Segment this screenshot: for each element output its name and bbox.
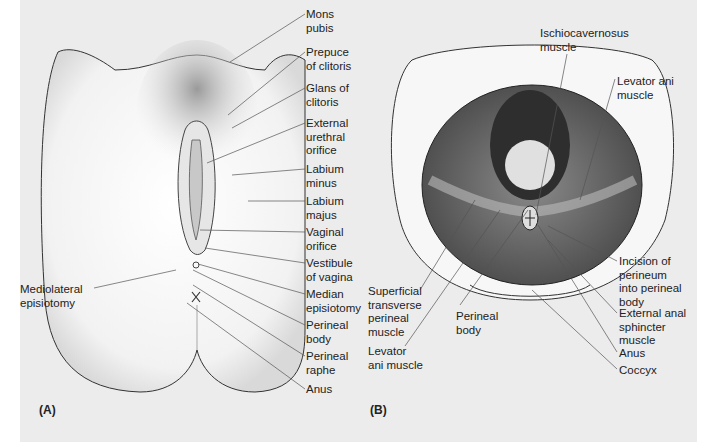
label-b-levatorani-muscle: Levator ani muscle bbox=[617, 75, 674, 102]
label-b-coccyx: Coccyx bbox=[619, 364, 657, 378]
label-a-glansof-clitoris: Glans of clitoris bbox=[306, 82, 349, 109]
label-a-vestibule-ofvagina: Vestibule of vagina bbox=[306, 257, 353, 284]
label-a-labium-minus: Labium minus bbox=[306, 163, 344, 190]
label-b-levator-animuscle: Levator ani muscle bbox=[368, 345, 423, 372]
panel-tag-a: (A) bbox=[39, 403, 56, 417]
label-a-mediolateral-episiotomy: Mediolateral episiotomy bbox=[20, 283, 83, 310]
label-a-median-episiotomy: Median episiotomy bbox=[306, 288, 361, 315]
leader-line bbox=[532, 290, 617, 369]
label-b-ischiocavernosus-muscle: Ischiocavernosus muscle bbox=[540, 27, 629, 54]
label-a-perineal-body: Perineal body bbox=[306, 319, 348, 346]
panel-tag-b: (B) bbox=[370, 403, 387, 417]
label-a-prepuce-ofclitoris: Prepuce of clitoris bbox=[306, 46, 351, 73]
label-a-perineal-raphe: Perineal raphe bbox=[306, 350, 348, 377]
label-b-superficial-transverse-perineal-muscle: Superficial transverse perineal muscle bbox=[368, 285, 422, 339]
label-a-external-urethral-orifice: External urethral orifice bbox=[306, 117, 348, 158]
label-a-labium-majus: Labium majus bbox=[306, 195, 344, 222]
label-a-vaginal-orifice: Vaginal orifice bbox=[306, 226, 344, 253]
illustration-layer bbox=[0, 0, 708, 442]
label-b-incisionof-perineum-intoperineal-body: Incision of perineum into perineal body bbox=[619, 255, 682, 309]
label-b-anus: Anus bbox=[619, 347, 645, 361]
label-b-externalanal-sphincter-muscle: External anal sphincter muscle bbox=[619, 307, 686, 348]
label-a-mons-pubis: Mons pubis bbox=[306, 8, 334, 35]
label-b-perineal-body: Perineal body bbox=[456, 310, 498, 337]
label-a-anus: Anus bbox=[306, 383, 332, 397]
panel-a-illustration bbox=[41, 40, 305, 392]
